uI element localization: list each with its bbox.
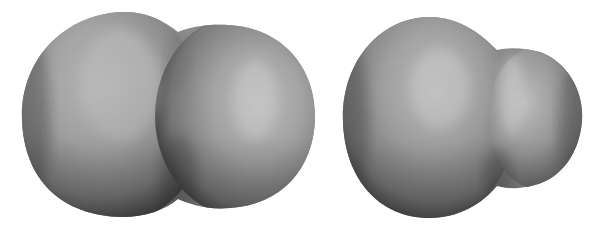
surfaces-illustration [0, 0, 596, 234]
symmetric-dumbbell-surface [10, 5, 325, 225]
asymmetric-surface [332, 10, 592, 226]
figure-canvas [0, 0, 596, 234]
